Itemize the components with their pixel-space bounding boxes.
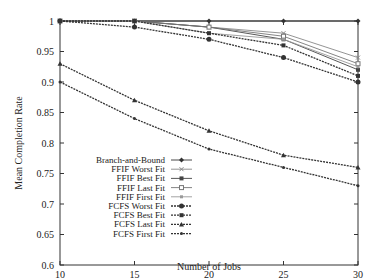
legend-label: FCFS First Fit (113, 229, 166, 239)
data-point-marker (207, 19, 212, 24)
series-fcfs-first-fit (59, 81, 360, 188)
data-point-marker (207, 37, 212, 42)
data-point-marker (356, 80, 361, 85)
legend-item: FCFS First Fit (113, 229, 192, 239)
data-point-marker (179, 204, 184, 209)
y-tick-label: 1 (49, 16, 54, 27)
x-tick-label: 30 (353, 269, 363, 279)
data-point-marker (58, 19, 62, 23)
data-point-marker (282, 34, 286, 38)
data-point-marker (132, 25, 137, 30)
chart-legend: Branch-and-BoundFFIF Worst FitFFIF Best … (96, 155, 192, 239)
data-point-marker (357, 65, 360, 68)
plot-frame (60, 21, 358, 265)
data-point-marker (356, 19, 361, 24)
data-point-marker (281, 19, 286, 24)
series-line (60, 82, 358, 186)
data-point-marker (180, 213, 184, 217)
data-point-marker (356, 62, 360, 66)
data-point-marker (180, 186, 184, 190)
y-tick-label: 0.75 (37, 168, 55, 179)
data-point-marker (179, 158, 184, 163)
data-point-marker (180, 232, 183, 235)
x-axis-label: Number of Jobs (177, 261, 241, 272)
data-point-marker (180, 195, 183, 198)
data-point-marker (207, 128, 212, 133)
data-point-marker (58, 61, 63, 65)
data-point-marker (357, 184, 360, 187)
data-point-marker (281, 55, 286, 60)
x-tick-label: 10 (55, 269, 65, 279)
x-tick-label: 15 (130, 269, 140, 279)
data-point-marker (133, 117, 136, 120)
y-tick-label: 0.6 (42, 260, 55, 271)
y-tick-label: 0.9 (42, 77, 55, 88)
data-point-marker (282, 43, 286, 47)
series-line (60, 64, 358, 168)
data-point-marker (207, 31, 211, 35)
y-tick-label: 0.8 (42, 138, 55, 149)
line-chart: 0.60.650.70.750.80.850.90.9511015202530 … (0, 0, 380, 279)
y-axis-label: Mean Completion Rate (13, 96, 24, 190)
y-tick-label: 0.85 (37, 107, 55, 118)
chart-axes: 0.60.650.70.750.80.850.90.9511015202530 (37, 16, 364, 279)
series-fcfs-last-fit (58, 61, 361, 169)
data-point-marker (356, 68, 360, 72)
data-point-marker (180, 176, 184, 180)
y-tick-label: 0.7 (42, 199, 55, 210)
x-tick-label: 25 (279, 269, 289, 279)
y-tick-label: 0.65 (37, 229, 55, 240)
data-point-marker (282, 166, 285, 169)
data-point-marker (208, 148, 211, 151)
data-point-marker (356, 74, 360, 78)
data-point-marker (207, 25, 211, 29)
y-tick-label: 0.95 (37, 46, 55, 57)
data-point-marker (133, 19, 137, 23)
data-point-marker (282, 38, 285, 41)
data-point-marker (59, 81, 62, 84)
